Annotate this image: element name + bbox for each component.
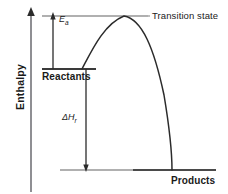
y-axis (27, 7, 35, 192)
enthalpy-change-symbol: ΔH (62, 112, 75, 122)
reaction-coordinate-curve (82, 16, 172, 170)
diagram-canvas (0, 0, 228, 194)
transition-state-label: Transition state (152, 11, 218, 21)
reactants-label: Reactants (42, 72, 91, 82)
activation-energy-label: Ea (59, 15, 69, 26)
energy-profile-diagram: Enthalpy Transition state Reactants Prod… (0, 0, 228, 194)
products-label: Products (171, 176, 215, 186)
y-axis-arrowhead-icon (27, 7, 35, 16)
activation-energy-subscript: a (65, 19, 69, 26)
enthalpy-change-label: ΔHr (62, 113, 77, 124)
y-axis-label: Enthalpy (15, 64, 26, 110)
enthalpy-change-subscript: r (75, 117, 77, 124)
enthalpy-change-arrow (83, 69, 88, 172)
activation-energy-arrow (50, 12, 55, 69)
